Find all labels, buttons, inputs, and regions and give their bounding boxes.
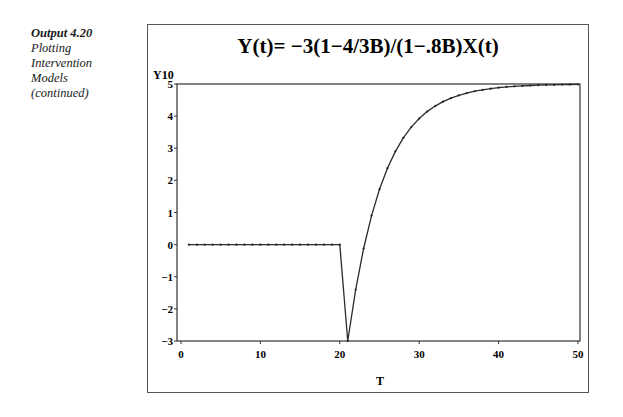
chart-title: Y(t)= −3(1−4/3B)/(1−.8B)X(t) xyxy=(237,34,498,58)
plot-area xyxy=(177,84,580,341)
y-tick-label: 3 xyxy=(168,142,174,154)
data-point xyxy=(220,244,222,246)
series-markers xyxy=(188,83,579,342)
y-tick-label: 2 xyxy=(168,174,174,186)
data-point xyxy=(394,150,396,152)
data-point xyxy=(339,244,341,246)
data-point xyxy=(434,105,436,107)
data-point xyxy=(235,244,237,246)
data-point xyxy=(418,117,420,119)
y-tick-label: 4 xyxy=(168,110,174,122)
data-point xyxy=(521,85,523,87)
data-point xyxy=(267,244,269,246)
data-point xyxy=(505,86,507,88)
data-point xyxy=(307,244,309,246)
data-point xyxy=(196,244,198,246)
x-tick-label: 0 xyxy=(178,348,184,360)
data-point xyxy=(331,244,333,246)
data-point xyxy=(275,244,277,246)
data-point xyxy=(482,89,484,91)
data-point xyxy=(577,83,579,85)
data-point xyxy=(243,244,245,246)
data-point xyxy=(259,244,261,246)
data-point xyxy=(251,244,253,246)
y-axis-ticks: 543210−1−2−3 xyxy=(161,78,177,347)
data-point xyxy=(315,244,317,246)
x-axis-label: T xyxy=(376,374,384,388)
data-point xyxy=(474,90,476,92)
y-tick-label: 0 xyxy=(168,239,174,251)
data-point xyxy=(490,88,492,90)
data-point xyxy=(529,84,531,86)
data-point xyxy=(513,85,515,87)
data-point xyxy=(283,244,285,246)
y-tick-label: −1 xyxy=(161,271,173,283)
chart-svg: Y(t)= −3(1−4/3B)/(1−.8B)X(t) Y10 T 54321… xyxy=(0,0,623,417)
x-tick-label: 50 xyxy=(573,348,585,360)
data-point xyxy=(498,87,500,89)
data-point xyxy=(347,340,349,342)
data-point xyxy=(466,92,468,94)
series-line-y10 xyxy=(189,84,578,341)
data-point xyxy=(426,110,428,112)
y-tick-label: −2 xyxy=(161,303,173,315)
data-point xyxy=(450,97,452,99)
data-point xyxy=(355,289,357,291)
data-point xyxy=(363,247,365,249)
data-point xyxy=(188,244,190,246)
data-point xyxy=(410,126,412,128)
data-point xyxy=(299,244,301,246)
data-point xyxy=(569,83,571,85)
data-point xyxy=(212,244,214,246)
data-point xyxy=(370,214,372,216)
data-point xyxy=(402,137,404,139)
x-axis-ticks: 01020304050 xyxy=(178,341,584,360)
data-point xyxy=(386,167,388,169)
x-tick-label: 40 xyxy=(493,348,505,360)
data-point xyxy=(204,244,206,246)
y-tick-label: 1 xyxy=(168,207,174,219)
data-point xyxy=(323,244,325,246)
y-tick-label: 5 xyxy=(168,78,174,90)
x-tick-label: 30 xyxy=(414,348,426,360)
x-tick-label: 10 xyxy=(255,348,267,360)
data-point xyxy=(553,84,555,86)
data-point xyxy=(291,244,293,246)
data-point xyxy=(458,94,460,96)
data-point xyxy=(228,244,230,246)
x-tick-label: 20 xyxy=(334,348,346,360)
data-point xyxy=(561,84,563,86)
data-point xyxy=(442,101,444,103)
y-tick-label: −3 xyxy=(161,335,173,347)
data-point xyxy=(545,84,547,86)
data-point xyxy=(378,188,380,190)
data-point xyxy=(537,84,539,86)
